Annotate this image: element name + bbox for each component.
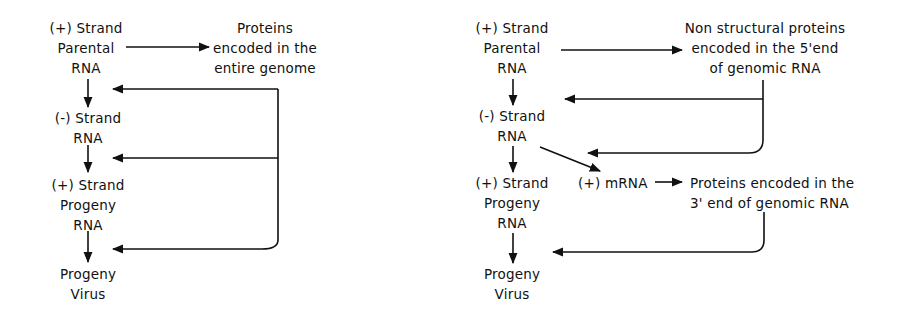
- node-label: of genomic RNA: [680, 58, 850, 78]
- left-plus-strand-progeny-rna-node: (+) Strand Progeny RNA: [38, 175, 138, 235]
- node-label: entire genome: [210, 58, 320, 78]
- node-label: (+) Strand: [36, 18, 136, 38]
- node-label: RNA: [36, 58, 136, 78]
- node-label: Non structural proteins: [680, 18, 850, 38]
- left-progeny-virus-node: Progeny Virus: [38, 264, 138, 304]
- node-label: RNA: [38, 215, 138, 235]
- node-label: Proteins: [210, 18, 320, 38]
- right-minus-strand-rna-node: (-) Strand RNA: [462, 106, 562, 146]
- node-label: RNA: [462, 58, 562, 78]
- node-label: (+) Strand: [462, 173, 562, 193]
- right-parental-rna-node: (+) Strand Parental RNA: [462, 18, 562, 78]
- node-label: (+) mRNA: [578, 173, 658, 193]
- node-label: encoded in the 5'end: [680, 38, 850, 58]
- node-label: encoded in the: [210, 38, 320, 58]
- node-label: Virus: [38, 284, 138, 304]
- node-label: RNA: [462, 126, 562, 146]
- node-label: Progeny: [38, 264, 138, 284]
- node-label: Proteins encoded in the: [690, 173, 880, 193]
- right-nonstructural-proteins-node: Non structural proteins encoded in the 5…: [680, 18, 850, 78]
- left-minus-strand-rna-node: (-) Strand RNA: [38, 108, 138, 148]
- right-plus-strand-progeny-rna-node: (+) Strand Progeny RNA: [462, 173, 562, 233]
- node-label: (-) Strand: [38, 108, 138, 128]
- node-label: Parental: [36, 38, 136, 58]
- node-label: Progeny: [462, 193, 562, 213]
- node-label: Parental: [462, 38, 562, 58]
- left-parental-rna-node: (+) Strand Parental RNA: [36, 18, 136, 78]
- node-label: Progeny: [462, 264, 562, 284]
- node-label: 3' end of genomic RNA: [690, 193, 880, 213]
- node-label: (-) Strand: [462, 106, 562, 126]
- node-label: RNA: [38, 128, 138, 148]
- right-progeny-virus-node: Progeny Virus: [462, 264, 562, 304]
- right-proteins-3-end-node: Proteins encoded in the 3' end of genomi…: [690, 173, 880, 213]
- node-label: Virus: [462, 284, 562, 304]
- node-label: (+) Strand: [462, 18, 562, 38]
- left-proteins-node: Proteins encoded in the entire genome: [210, 18, 320, 78]
- node-label: Progeny: [38, 195, 138, 215]
- node-label: (+) Strand: [38, 175, 138, 195]
- right-mrna-node: (+) mRNA: [578, 173, 658, 193]
- node-label: RNA: [462, 213, 562, 233]
